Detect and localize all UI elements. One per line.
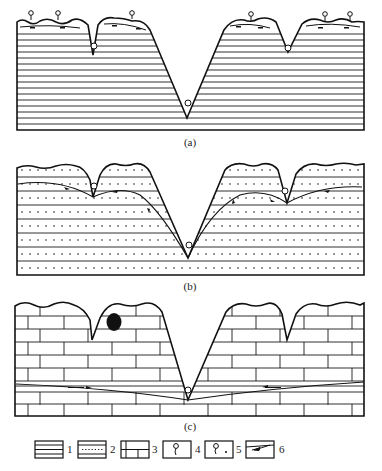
panel-a — [0, 11, 382, 130]
terrain-outline-a — [17, 18, 364, 130]
legend-symbol-3 — [121, 441, 149, 458]
legend-label-5: 5 — [236, 443, 242, 455]
spring-icon — [29, 11, 34, 20]
spring-icon — [91, 43, 97, 49]
spring-icon — [185, 387, 191, 393]
spring-icon — [91, 183, 97, 189]
legend-label-6: 6 — [279, 443, 285, 455]
spring-icon — [282, 188, 288, 194]
caption-c: (c) — [170, 420, 210, 432]
caption-a: (a) — [170, 136, 210, 148]
legend-symbol-2 — [78, 441, 106, 458]
spring-icon — [186, 242, 192, 248]
legend-symbol-6 — [246, 441, 274, 458]
legend-label-2: 2 — [110, 443, 116, 455]
spring-icon — [130, 11, 135, 19]
spring-icon — [323, 12, 328, 21]
spring-icon — [249, 12, 254, 21]
spring-icon — [185, 100, 191, 106]
legend-label-4: 4 — [195, 443, 201, 455]
legend-symbol-5 — [205, 441, 233, 458]
panel-c — [0, 0, 382, 417]
karst-cave-icon — [107, 313, 122, 331]
legend-label-3: 3 — [152, 443, 158, 455]
terrain-outline-c — [15, 302, 364, 416]
caption-b: (b) — [170, 280, 210, 292]
legend-symbol-1 — [35, 441, 63, 458]
spring-icon — [56, 11, 61, 20]
legend-symbol-4 — [163, 441, 191, 458]
perched-water-lens-group — [20, 24, 360, 30]
legend-label-1: 1 — [67, 443, 73, 455]
limestone-brick-pattern — [0, 0, 382, 417]
spring-icon — [285, 45, 291, 51]
diagram-canvas — [0, 0, 382, 471]
